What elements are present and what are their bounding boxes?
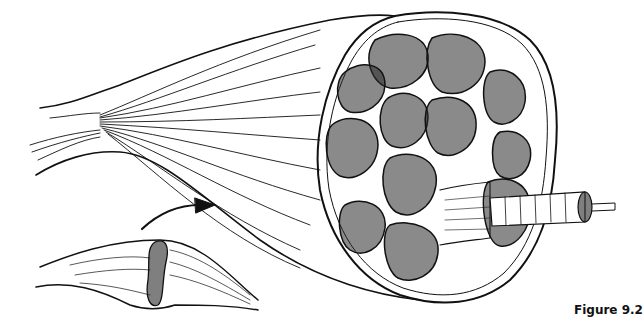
muscle-striations bbox=[30, 30, 320, 268]
arrow-icon bbox=[142, 198, 215, 229]
muscle-fiber bbox=[490, 192, 615, 226]
figure-caption: Figure 9.2 bbox=[574, 303, 643, 317]
inset-muscle bbox=[36, 240, 258, 310]
